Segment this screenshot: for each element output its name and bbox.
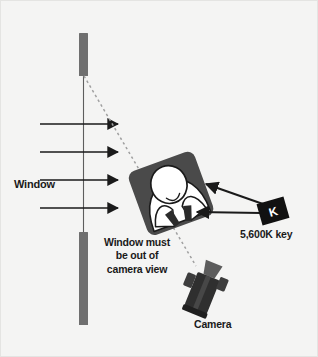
camera-view-note-line-1: Window must bbox=[93, 236, 181, 249]
camera-label: Camera bbox=[194, 318, 231, 330]
key-arrow-lower bbox=[197, 212, 261, 213]
lighting-diagram-figure: K Window 5,600K key Camera Window must b… bbox=[0, 0, 318, 357]
window-label: Window bbox=[14, 178, 55, 191]
wall-segment-upper bbox=[79, 33, 88, 76]
camera-view-note: Window must be out of camera view bbox=[93, 236, 181, 276]
key-light-label: 5,600K key bbox=[240, 228, 292, 240]
wall-segment-lower bbox=[79, 232, 88, 325]
camera-view-note-line-3: camera view bbox=[93, 263, 181, 276]
camera-view-note-line-2: be out of bbox=[93, 249, 181, 262]
